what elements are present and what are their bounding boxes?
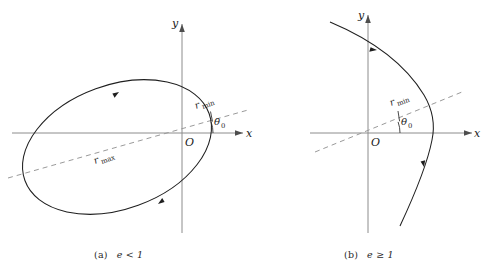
panel-b-y-axis-arrowhead <box>365 15 371 23</box>
panel-a-caption-text: e < 1 <box>117 249 144 260</box>
panel-a-axes <box>12 24 243 233</box>
panel-a-direction-arrow-lower <box>158 198 165 204</box>
panel-b-direction-arrow-upper <box>369 47 377 52</box>
panel-a-theta-label: θ <box>214 116 220 127</box>
panel-b-theta-subscript: 0 <box>408 122 412 130</box>
panel-a-y-axis-label: y <box>171 17 179 30</box>
panel-a-canvas: x y O r min r max θ 0 x <box>0 0 495 275</box>
panel-b-caption: (b)e ≥ 1 <box>344 249 394 260</box>
panel-b-origin-label: O <box>371 136 380 149</box>
panel-b-caption-text: e ≥ 1 <box>367 249 394 260</box>
panel-b-r-min-subscript: min <box>396 96 412 108</box>
panel-a-caption: (a)e < 1 <box>94 249 143 260</box>
panel-a-r-max-label-group: r max <box>92 148 116 168</box>
panel-a-direction-arrow-upper <box>112 92 119 98</box>
panel-b-x-axis-label: x <box>474 127 481 140</box>
panel-a-x-axis-label: x <box>246 127 253 140</box>
panel-b-theta-label: θ <box>401 116 407 127</box>
panel-a-caption-tag: (a) <box>94 249 108 260</box>
figure-root: x y O r min r max θ 0 x <box>0 0 495 275</box>
panel-a-x-axis-arrowhead <box>235 130 243 136</box>
panel-b-caption-tag: (b) <box>344 249 358 260</box>
panel-a-r-max-subscript: max <box>100 153 116 165</box>
panel-b-x-axis-arrowhead <box>464 130 472 136</box>
panel-a-r-min-subscript: min <box>201 99 217 111</box>
panel-b-axes <box>310 15 472 233</box>
panel-a-theta-subscript: 0 <box>221 122 225 130</box>
panel-a-y-axis-arrowhead <box>179 24 185 32</box>
panel-a-r-min-label-group: r min <box>193 94 216 113</box>
panel-b-r-min-label-group: r min <box>388 91 411 110</box>
panel-b-theta-tick <box>398 111 400 121</box>
panel-a-origin-label: O <box>185 136 194 149</box>
panel-b-theta-arc <box>398 122 400 133</box>
panel-a-ellipse-orbit <box>4 55 231 239</box>
panel-b-hyperbola-orbit <box>330 22 433 226</box>
panel-b-y-axis-label: y <box>357 9 365 22</box>
